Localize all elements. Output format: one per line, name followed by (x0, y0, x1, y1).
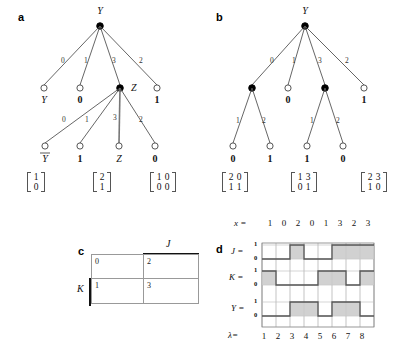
panel-d-timing-diagram (0, 0, 405, 352)
figure-root: a Y 0 1 3 2 Y 0 Z 1 0 1 3 2 (0, 0, 405, 352)
